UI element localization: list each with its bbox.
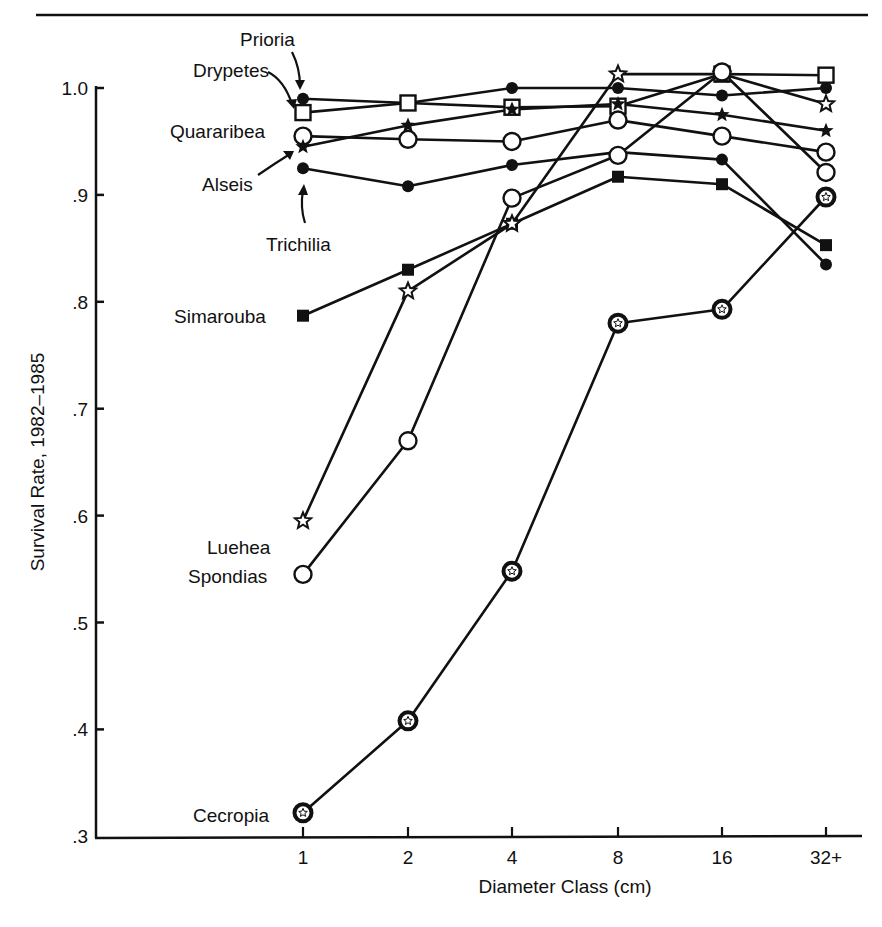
marker-simarouba: [716, 178, 728, 190]
marker-alseis: [714, 107, 729, 122]
marker-prioria: [506, 82, 518, 94]
marker-prioria: [297, 93, 309, 105]
marker-spondias: [504, 190, 521, 207]
survival-rate-chart: 1.0.9.8.7.6.5.4.3 12481632+ Survival Rat…: [0, 0, 882, 927]
x-ticks: 12481632+: [298, 827, 842, 868]
label-simarouba: Simarouba: [174, 306, 266, 327]
y-tick-label: .6: [72, 506, 88, 527]
marker-luehea: [295, 512, 311, 527]
label-quararibea: Quararibea: [170, 121, 265, 142]
marker-simarouba: [820, 239, 832, 251]
marker-luehea: [610, 66, 626, 81]
marker-quararibea: [400, 131, 417, 148]
marker-luehea: [818, 96, 834, 111]
marker-trichilia: [297, 162, 309, 174]
label-prioria: Prioria: [240, 29, 295, 50]
x-tick-label: 1: [298, 847, 309, 868]
y-tick-label: 1.0: [62, 78, 88, 99]
series-line-quararibea: [303, 120, 826, 152]
label-alseis: Alseis: [202, 174, 253, 195]
marker-drypetes: [401, 95, 416, 110]
series-labels: Prioria Drypetes Quararibea Alseis Trich…: [170, 29, 331, 826]
marker-alseis: [818, 123, 833, 137]
y-tick-label: .8: [72, 292, 88, 313]
series-line-simarouba: [303, 177, 826, 316]
y-tick-label: .7: [72, 399, 88, 420]
marker-simarouba: [402, 264, 414, 276]
label-cecropia: Cecropia: [193, 805, 269, 826]
marker-quararibea: [504, 133, 521, 150]
y-tick-label: .4: [72, 719, 88, 740]
marker-simarouba: [612, 171, 624, 183]
x-tick-label: 8: [613, 847, 624, 868]
marker-spondias: [295, 566, 312, 583]
label-trichilia: Trichilia: [266, 234, 331, 255]
label-drypetes: Drypetes: [193, 60, 269, 81]
marker-spondias: [714, 63, 731, 80]
marker-spondias: [610, 147, 627, 164]
marker-quararibea: [714, 128, 731, 145]
marker-spondias: [818, 164, 835, 181]
x-tick-label: 32+: [810, 847, 842, 868]
marker-trichilia: [820, 258, 832, 270]
x-axis: [95, 836, 862, 838]
arrow-alseis: [258, 154, 290, 175]
series-lines: [303, 72, 826, 813]
marker-simarouba: [297, 310, 309, 322]
x-axis-label: Diameter Class (cm): [478, 876, 651, 897]
x-tick-label: 16: [711, 847, 732, 868]
label-spondias: Spondias: [188, 566, 267, 587]
marker-prioria: [612, 82, 624, 94]
marker-trichilia: [716, 154, 728, 166]
y-axis-label: Survival Rate, 1982–1985: [27, 353, 48, 572]
x-tick-label: 2: [403, 847, 414, 868]
marker-trichilia: [506, 159, 518, 171]
y-tick-label: .9: [72, 185, 88, 206]
series-line-cecropia: [303, 197, 826, 813]
label-luehea: Luehea: [207, 537, 271, 558]
x-tick-label: 4: [507, 847, 518, 868]
marker-quararibea: [818, 144, 835, 161]
marker-trichilia: [402, 180, 414, 192]
series-line-spondias: [303, 72, 826, 574]
marker-quararibea: [610, 112, 627, 129]
marker-prioria: [716, 89, 728, 101]
marker-luehea: [400, 283, 416, 298]
y-ticks: 1.0.9.8.7.6.5.4.3: [62, 78, 104, 847]
arrow-drypetes: [268, 72, 292, 104]
series-line-trichilia: [303, 152, 826, 264]
marker-spondias: [400, 432, 417, 449]
y-tick-label: .5: [72, 613, 88, 634]
marker-drypetes: [296, 105, 311, 120]
y-tick-label: .3: [72, 826, 88, 847]
marker-drypetes: [819, 68, 834, 83]
